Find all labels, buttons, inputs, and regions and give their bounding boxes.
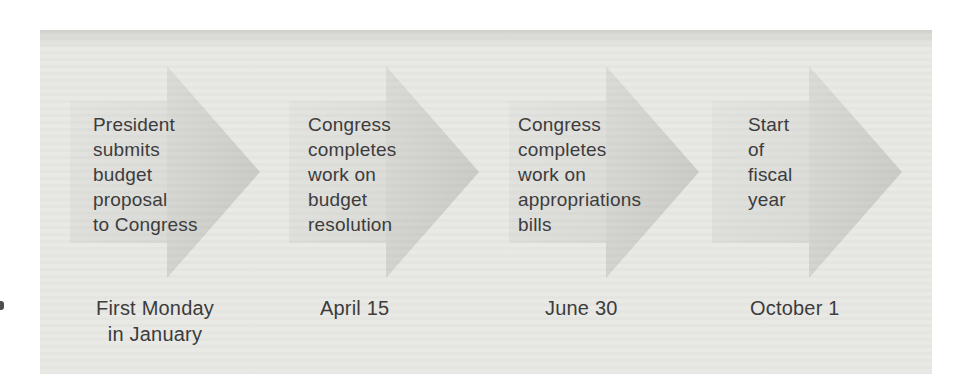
step-date: October 1 <box>750 295 840 321</box>
step-label: Congress completes work on budget resolu… <box>308 112 396 237</box>
step-label: Start of fiscal year <box>748 112 793 212</box>
process-step-2: Congress completes work on budget resolu… <box>289 30 489 374</box>
step-date: First Monday in January <box>70 295 240 347</box>
step-date: June 30 <box>545 295 618 321</box>
step-label: Congress completes work on appropriation… <box>518 112 641 237</box>
step-date: April 15 <box>320 295 389 321</box>
page-edge-artifact <box>0 301 4 310</box>
process-step-4: Start of fiscal year October 1 <box>712 30 912 374</box>
process-step-3: Congress completes work on appropriation… <box>509 30 709 374</box>
right-arrow-shape <box>712 66 902 278</box>
figure-panel: President submits budget proposal to Con… <box>40 30 932 374</box>
step-label: President submits budget proposal to Con… <box>93 112 198 237</box>
process-step-1: President submits budget proposal to Con… <box>70 30 270 374</box>
scanned-figure-page: President submits budget proposal to Con… <box>0 0 964 392</box>
